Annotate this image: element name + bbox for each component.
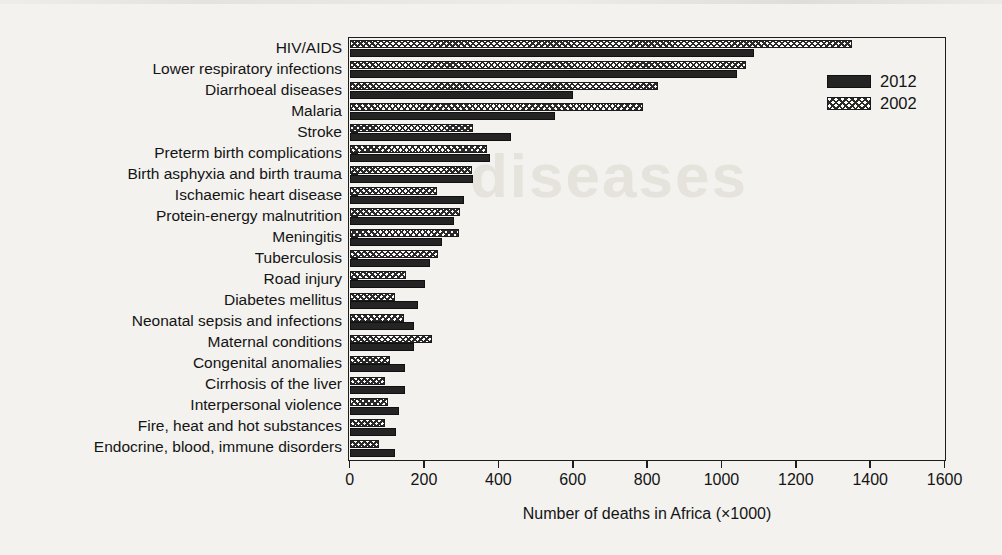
legend-item-2012: 2012 xyxy=(827,72,937,90)
category-label: Lower respiratory infections xyxy=(10,61,342,77)
bar-2012 xyxy=(350,112,555,120)
category-label: Protein-energy malnutrition xyxy=(10,208,342,224)
x-tick-label: 600 xyxy=(559,471,586,489)
bar-2012 xyxy=(350,175,474,183)
x-tick-label: 200 xyxy=(411,471,438,489)
category-label: Tuberculosis xyxy=(10,250,342,266)
x-tick xyxy=(646,461,648,468)
bar-2012 xyxy=(350,428,397,436)
bar-2012 xyxy=(350,196,465,204)
x-tick xyxy=(944,461,946,468)
category-label: Diarrhoeal diseases xyxy=(10,82,342,98)
bar-2002 xyxy=(350,82,658,90)
x-tick-label: 800 xyxy=(634,471,661,489)
bar-2002 xyxy=(350,40,852,48)
x-tick-label: 0 xyxy=(345,471,354,489)
x-tick xyxy=(721,461,723,468)
category-axis: HIV/AIDSLower respiratory infectionsDiar… xyxy=(10,37,342,461)
x-tick xyxy=(869,461,871,468)
category-label: Cirrhosis of the liver xyxy=(10,376,342,392)
category-label: Maternal conditions xyxy=(10,334,342,350)
bar-2002 xyxy=(350,250,438,258)
x-axis: 02004006008001000120014001600 xyxy=(348,461,946,462)
category-label: Birth asphyxia and birth trauma xyxy=(10,166,342,182)
category-label: Malaria xyxy=(10,103,342,119)
bar-2002 xyxy=(350,103,643,111)
category-label: Ischaemic heart disease xyxy=(10,187,342,203)
bar-2012 xyxy=(350,91,573,99)
x-tick xyxy=(498,461,500,468)
x-tick-label: 1600 xyxy=(927,471,963,489)
bar-2012 xyxy=(350,238,443,246)
x-tick-label: 1200 xyxy=(778,471,814,489)
x-tick-label: 400 xyxy=(485,471,512,489)
bar-2012 xyxy=(350,133,511,141)
category-label: Meningitis xyxy=(10,229,342,245)
x-tick xyxy=(423,461,425,468)
bar-2002 xyxy=(350,440,379,448)
bar-2002 xyxy=(350,271,407,279)
category-label: Road injury xyxy=(10,271,342,287)
bar-2002 xyxy=(350,229,459,237)
category-label: Congenital anomalies xyxy=(10,355,342,371)
legend-label-2012: 2012 xyxy=(880,73,917,90)
bar-2002 xyxy=(350,419,385,427)
category-label: Endocrine, blood, immune disorders xyxy=(10,439,342,455)
bar-2012 xyxy=(350,301,418,309)
bar-2002 xyxy=(350,314,404,322)
category-label: HIV/AIDS xyxy=(10,40,342,56)
bar-2002 xyxy=(350,377,386,385)
bar-2002 xyxy=(350,61,747,69)
chart-legend: 2012 2002 xyxy=(827,72,937,116)
bar-2012 xyxy=(350,154,491,162)
bar-2002 xyxy=(350,124,474,132)
x-tick-label: 1400 xyxy=(852,471,888,489)
bar-2002 xyxy=(350,356,390,364)
bar-chart-figure: HIV/AIDSLower respiratory infectionsDiar… xyxy=(0,0,1002,555)
bar-2012 xyxy=(350,449,396,457)
category-label: Interpersonal violence xyxy=(10,397,342,413)
bar-2002 xyxy=(350,166,473,174)
category-label: Neonatal sepsis and infections xyxy=(10,313,342,329)
legend-swatch-solid-icon xyxy=(827,75,871,88)
x-tick xyxy=(795,461,797,468)
x-tick-label: 1000 xyxy=(704,471,740,489)
bar-2002 xyxy=(350,208,461,216)
x-tick xyxy=(349,461,351,468)
bar-2002 xyxy=(350,187,438,195)
bar-2012 xyxy=(350,364,406,372)
category-label: Stroke xyxy=(10,124,342,140)
bar-2012 xyxy=(350,386,405,394)
bar-2002 xyxy=(350,335,433,343)
category-label: Diabetes mellitus xyxy=(10,292,342,308)
bar-2012 xyxy=(350,322,414,330)
bar-2012 xyxy=(350,70,738,78)
legend-swatch-crosshatch-icon xyxy=(827,97,871,110)
category-label: Fire, heat and hot substances xyxy=(10,418,342,434)
bar-2012 xyxy=(350,259,431,267)
x-axis-title: Number of deaths in Africa (×1000) xyxy=(348,505,946,523)
bar-2002 xyxy=(350,145,488,153)
bar-2012 xyxy=(350,280,426,288)
category-label: Preterm birth complications xyxy=(10,145,342,161)
legend-item-2002: 2002 xyxy=(827,94,937,112)
bar-2012 xyxy=(350,49,755,57)
bar-2012 xyxy=(350,217,454,225)
bar-2002 xyxy=(350,398,388,406)
legend-label-2002: 2002 xyxy=(880,95,917,112)
bar-2002 xyxy=(350,293,396,301)
x-tick xyxy=(572,461,574,468)
bar-2012 xyxy=(350,407,400,415)
bar-2012 xyxy=(350,343,415,351)
